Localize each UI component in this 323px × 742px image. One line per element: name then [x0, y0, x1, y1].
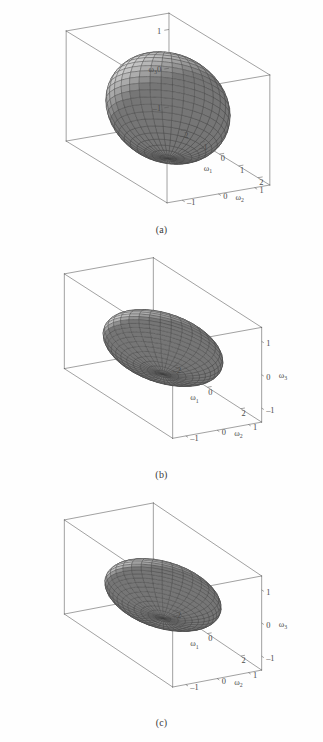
axis-text: ω3 — [279, 620, 288, 630]
caption-b: (b) — [0, 469, 323, 480]
axis-text: 1 — [266, 339, 270, 348]
axis-text: ω1 — [204, 164, 213, 174]
axis-text: 0 — [266, 621, 270, 630]
axis-text: –1 — [189, 683, 198, 692]
axis-text: 0 — [208, 388, 212, 397]
ellipsoid-surface — [105, 559, 221, 632]
axis-text: 0 — [223, 192, 227, 201]
axis-text: –1 — [198, 143, 207, 152]
axis-text: 2 — [242, 656, 246, 665]
axis-text: ω3 — [279, 371, 288, 381]
axis-text: –2 — [179, 131, 188, 140]
axis-text: –1 — [265, 654, 274, 663]
axis-text: 0 — [157, 65, 161, 74]
axis-text: 0 — [222, 428, 226, 437]
axis-text: 0 — [221, 154, 225, 163]
axis-text: –1 — [189, 434, 198, 443]
plot-panel-c: –202ω110–1ω210–1ω3 (c) — [0, 495, 323, 742]
ellipsoid-surface — [103, 310, 223, 387]
ellipsoid-plot-c: –202ω110–1ω210–1ω3 — [0, 495, 323, 742]
axis-text: –1 — [265, 406, 274, 415]
plot-panel-a: –2–1012ω110–1ω210–1ω3 (a) — [0, 0, 323, 248]
axis-text: ω1 — [190, 393, 199, 403]
axis-text: ω2 — [234, 429, 243, 439]
plot-panel-b: –202ω110–1ω210–1ω3 (b) — [0, 248, 323, 495]
axis-text: 1 — [266, 588, 270, 597]
axis-text: 1 — [253, 423, 257, 432]
ellipsoid-plot-b: –202ω110–1ω210–1ω3 — [0, 248, 323, 495]
ellipsoid-plot-a: –2–1012ω110–1ω210–1ω3 — [0, 0, 323, 248]
axis-text: ω1 — [190, 639, 199, 649]
axis-text: 1 — [157, 27, 161, 36]
axis-text: 1 — [240, 166, 244, 175]
axis-text: ω2 — [235, 193, 244, 203]
axis-text: ω2 — [234, 678, 243, 688]
axis-text: –1 — [152, 104, 161, 113]
axis-text: –1 — [186, 198, 195, 207]
axis-text: 1 — [260, 186, 264, 195]
axis-text: 2 — [242, 409, 246, 418]
axis-text: 0 — [266, 373, 270, 382]
axis-text: 1 — [253, 671, 257, 680]
axis-text: –2 — [172, 366, 181, 375]
axis-text: 0 — [208, 634, 212, 643]
axis-text: 0 — [222, 677, 226, 686]
ellipsoid-surface — [106, 52, 230, 164]
caption-a: (a) — [0, 224, 323, 235]
caption-c: (c) — [0, 717, 323, 728]
axis-text: –2 — [172, 611, 181, 620]
